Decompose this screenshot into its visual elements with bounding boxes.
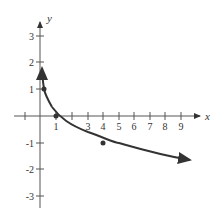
svg-text:9: 9: [179, 121, 184, 132]
point-1-0: [54, 114, 59, 119]
curve: [52, 107, 190, 160]
svg-text:3: 3: [29, 31, 34, 42]
svg-text:-3: -3: [26, 191, 34, 202]
chart: x y 1 3 4 5 6 7 8 9 3 2 1 -1 -2 -: [0, 0, 220, 217]
svg-text:2: 2: [29, 57, 34, 68]
svg-text:-2: -2: [26, 164, 34, 175]
y-axis-label: y: [46, 12, 52, 24]
svg-text:5: 5: [117, 121, 122, 132]
svg-text:4: 4: [101, 121, 106, 132]
svg-text:-1: -1: [26, 138, 34, 149]
x-axis-label: x: [204, 110, 210, 122]
svg-text:1: 1: [29, 84, 34, 95]
point-4-neg1: [101, 141, 106, 146]
svg-text:7: 7: [148, 121, 153, 132]
svg-text:6: 6: [132, 121, 137, 132]
svg-text:1: 1: [54, 121, 59, 132]
point-quarter-1: [42, 87, 47, 92]
svg-text:8: 8: [163, 121, 168, 132]
x-tick-labels: 1 3 4 5 6 7 8 9: [54, 121, 184, 132]
